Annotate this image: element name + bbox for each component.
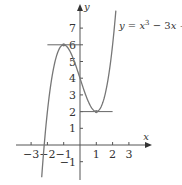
y-axis-arrow-icon [77,4,83,11]
y-tick-label: 3 [69,89,76,102]
function-graph: −3−2−1123−11234567 xyy = x3 − 3x + 4 [0,0,182,185]
y-tick-label: −1 [60,156,76,169]
y-tick-label: 1 [69,122,76,135]
ticks: −3−2−1123−11234567 [23,22,132,169]
x-axis-arrow-icon [145,142,152,148]
y-tick-label: 7 [69,22,76,35]
y-tick-label: 4 [69,72,76,85]
x-axis-label: x [143,131,149,142]
labels: xyy = x3 − 3x + 4 [83,1,182,142]
x-tick-label: 1 [93,148,100,161]
x-tick-label: 2 [109,148,116,161]
equation-label: y = x3 − 3x + 4 [118,19,182,31]
y-axis-label: y [83,1,90,12]
x-tick-label: −2 [39,148,55,161]
y-tick-label: 2 [69,106,76,119]
critical-point-marker [62,43,65,46]
x-tick-label: −3 [23,148,39,161]
critical-point-marker [95,110,98,113]
x-tick-label: 3 [125,148,132,161]
